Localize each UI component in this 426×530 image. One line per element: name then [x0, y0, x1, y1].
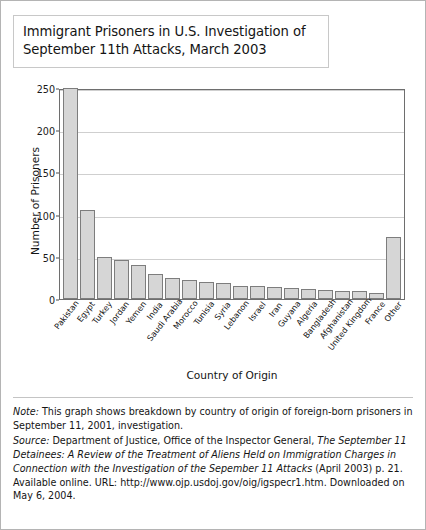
x-tick-slot: Iran [267, 301, 282, 365]
x-tick-slot: France [370, 301, 385, 365]
bar [301, 289, 316, 299]
y-axis: 050100150200250 [31, 89, 59, 300]
bar [63, 88, 78, 299]
x-tick-slot: Yemen [130, 301, 145, 365]
x-tick-slot: Saudi Arabia [165, 301, 180, 365]
y-tick-label: 200 [37, 126, 55, 137]
x-tick-slot: Other [387, 301, 402, 365]
bar [216, 283, 231, 299]
y-tick-label: 250 [37, 84, 55, 95]
x-tick-slot: Egypt [79, 301, 94, 365]
chart-container: Number of Prisoners 050100150200250 Paki… [13, 77, 413, 387]
x-tick-slot: Pakistan [62, 301, 77, 365]
x-tick-slot: Israel [250, 301, 265, 365]
note-label: Note: [13, 406, 39, 417]
page-title: Immigrant Prisoners in U.S. Investigatio… [23, 23, 319, 59]
bar [199, 282, 214, 299]
bar [267, 287, 282, 299]
bar [250, 286, 265, 300]
bar [165, 278, 180, 299]
source-label: Source: [13, 435, 49, 446]
bar [386, 237, 401, 299]
chart-title-box: Immigrant Prisoners in U.S. Investigatio… [13, 15, 329, 68]
bar [233, 286, 248, 300]
note-text: This graph shows breakdown by country of… [13, 406, 413, 431]
bar [369, 293, 384, 299]
bar [284, 288, 299, 299]
y-tick-label: 100 [37, 210, 55, 221]
figure-page: Immigrant Prisoners in U.S. Investigatio… [0, 0, 426, 530]
x-tick-slot: Syria [216, 301, 231, 365]
x-tick-slot: Guyana [284, 301, 299, 365]
y-tick-label: 150 [37, 168, 55, 179]
x-axis-title: Country of Origin [59, 369, 405, 381]
x-tick-slot: United Kingdom [353, 301, 368, 365]
x-tick-slot: Turkey [96, 301, 111, 365]
source-text-1: Department of Justice, Office of the Ins… [49, 435, 317, 446]
x-tick-slot: Jordan [113, 301, 128, 365]
footnote-source: Source: Department of Justice, Office of… [13, 434, 413, 504]
bar [131, 265, 146, 299]
bar [182, 280, 197, 299]
bar [148, 274, 163, 299]
bar [80, 210, 95, 299]
x-tick-slot: Morocco [182, 301, 197, 365]
y-tick-label: 0 [49, 295, 55, 306]
footnote-note: Note: This graph shows breakdown by coun… [13, 405, 413, 433]
bar [97, 257, 112, 299]
x-axis-tick-labels: PakistanEgyptTurkeyJordanYemenIndiaSaudi… [59, 301, 405, 365]
bar-series [60, 90, 404, 299]
plot-area [59, 89, 405, 300]
bar [114, 260, 129, 299]
y-tick-label: 50 [43, 252, 55, 263]
footnote: Note: This graph shows breakdown by coun… [13, 397, 413, 519]
x-tick-slot: Lebanon [233, 301, 248, 365]
x-tick-slot: Tunisia [199, 301, 214, 365]
